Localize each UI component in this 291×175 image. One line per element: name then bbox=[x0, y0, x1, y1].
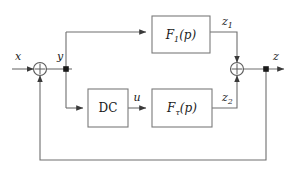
sum-left bbox=[34, 63, 47, 76]
block-ftau-label: Fτ(p) bbox=[166, 101, 197, 117]
signal-label-z1: z1 bbox=[221, 15, 233, 30]
signal-label-y: y bbox=[56, 50, 64, 63]
block-f1-label: F1(p) bbox=[165, 28, 197, 44]
signal-label-x: x bbox=[15, 50, 22, 63]
block-diagram-canvas: F1(p) DC Fτ(p) x y u z1 z2 z bbox=[0, 0, 291, 175]
signal-label-z2: z2 bbox=[221, 91, 233, 106]
branch-node-y bbox=[63, 66, 69, 72]
wire-f1-out-to-sum bbox=[210, 32, 237, 63]
signal-label-u: u bbox=[133, 91, 140, 104]
signal-label-z: z bbox=[272, 50, 279, 63]
branch-node-z-tap bbox=[263, 66, 269, 72]
block-dc-label: DC bbox=[99, 101, 118, 115]
block-diagram-svg: F1(p) DC Fτ(p) x y u z1 z2 z bbox=[0, 0, 291, 175]
sum-right bbox=[231, 63, 244, 76]
